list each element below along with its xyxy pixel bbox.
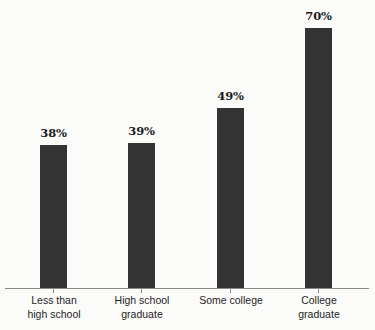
x-label-line: graduate <box>87 308 197 322</box>
x-label-line: graduate <box>264 308 374 322</box>
bar-value-label: 38% <box>40 126 66 140</box>
bar-group-less-than-high-school: 38% <box>40 0 67 288</box>
bar-rect[interactable] <box>217 108 244 288</box>
x-label-line: College <box>264 294 374 308</box>
x-label-college-graduate: College graduate <box>264 294 374 321</box>
axis-tick <box>53 289 54 293</box>
bar-value-label: 39% <box>128 124 154 138</box>
bar-value-label: 49% <box>217 89 243 103</box>
bar-chart-figure: 38% 39% 49% 70% Less than high school Hi… <box>0 0 375 330</box>
bar-group-some-college: 49% <box>217 0 244 288</box>
axis-tick <box>318 289 319 293</box>
axis-tick <box>230 289 231 293</box>
plot-area: 38% 39% 49% 70% <box>0 0 375 288</box>
axis-tick <box>141 289 142 293</box>
bar-rect[interactable] <box>40 145 67 288</box>
bar-rect[interactable] <box>305 28 332 288</box>
x-axis-line <box>5 288 369 289</box>
bar-group-high-school-graduate: 39% <box>128 0 155 288</box>
bar-group-college-graduate: 70% <box>305 0 332 288</box>
x-axis-labels: Less than high school High school gradua… <box>0 294 375 330</box>
bar-rect[interactable] <box>128 143 155 288</box>
bar-value-label: 70% <box>305 9 331 23</box>
